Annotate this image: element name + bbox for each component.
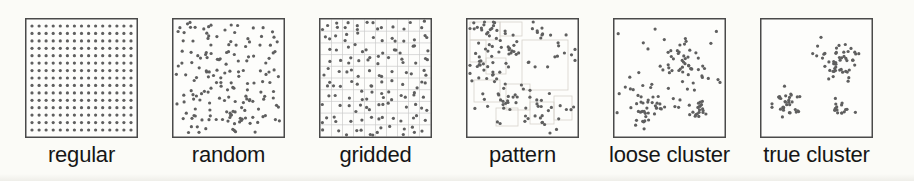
panel-true-cluster: true cluster	[760, 18, 873, 167]
scanned-figure-page: { "figure": { "background": "#fbfbf7", "…	[0, 0, 914, 181]
panel-regular: regular	[25, 18, 138, 167]
panel-pattern: pattern	[466, 18, 579, 167]
panel-label-loose-cluster: loose cluster	[609, 143, 730, 167]
panel-gridded: gridded	[319, 18, 432, 167]
regular-scatter-plot	[25, 18, 138, 138]
random-scatter-plot	[172, 18, 285, 138]
panel-loose-cluster: loose cluster	[613, 18, 726, 167]
panel-label-gridded: gridded	[340, 143, 412, 167]
panel-label-random: random	[192, 143, 265, 167]
panel-label-pattern: pattern	[489, 143, 556, 167]
point-pattern-figure: regular random gridded pattern loose clu…	[25, 18, 873, 167]
true-cluster-scatter-plot	[760, 18, 873, 138]
panel-random: random	[172, 18, 285, 167]
scan-shading	[0, 174, 914, 181]
panel-label-regular: regular	[48, 143, 115, 167]
panel-label-true-cluster: true cluster	[763, 143, 869, 167]
gridded-scatter-plot	[319, 18, 432, 138]
pattern-scatter-plot	[466, 18, 579, 138]
loose-cluster-scatter-plot	[613, 18, 726, 138]
